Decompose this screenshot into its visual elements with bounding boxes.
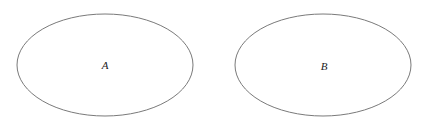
set-b: B (235, 14, 411, 116)
diagram-canvas: A B (0, 0, 425, 134)
set-b-label: B (321, 60, 328, 72)
set-a: A (17, 14, 193, 116)
set-a-label: A (101, 59, 109, 71)
